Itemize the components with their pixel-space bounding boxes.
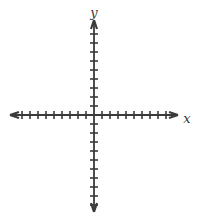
axes-svg: x y [0, 0, 199, 218]
y-axis-label: y [89, 5, 98, 20]
x-axis-label: x [183, 111, 191, 126]
y-axis [90, 20, 98, 212]
coordinate-plane-figure: x y [0, 0, 199, 218]
